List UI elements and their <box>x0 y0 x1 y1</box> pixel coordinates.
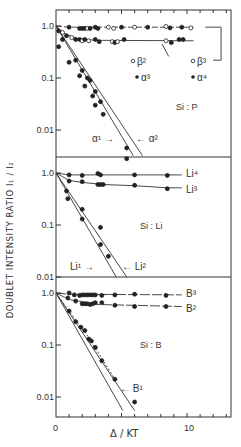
legend-beta2: β² <box>137 56 147 67</box>
label-b1: ← B¹ <box>120 383 143 394</box>
data-point <box>133 305 137 309</box>
y-axis-label: DOUBLET INTENSITY RATIO I₁ / I₂ <box>3 120 17 360</box>
data-point <box>93 301 97 305</box>
data-point <box>91 94 95 98</box>
data-point <box>67 25 71 29</box>
data-point <box>177 38 181 42</box>
data-point <box>78 74 82 78</box>
data-point <box>67 173 71 177</box>
label-alpha1: α¹ → <box>92 133 114 144</box>
data-point <box>164 293 168 297</box>
data-point <box>101 112 105 116</box>
data-point <box>100 359 104 363</box>
data-point <box>89 339 93 343</box>
label-li4: Li⁴ <box>186 168 198 179</box>
beta2-alpha3-arrow <box>162 44 169 56</box>
data-point <box>180 25 184 29</box>
data-point <box>133 400 137 404</box>
trend-line <box>56 173 182 175</box>
legend-alpha3: α³ <box>141 72 151 83</box>
y-tick-label: 0.1 <box>41 73 54 83</box>
data-point <box>165 187 169 191</box>
y-tick-label: 0.01 <box>36 392 54 402</box>
data-point <box>113 293 117 297</box>
label-li2: ← Li² <box>122 261 147 272</box>
label-li3: Li³ <box>186 184 198 195</box>
x-tick-label: 0 <box>53 423 58 433</box>
data-point <box>125 157 129 161</box>
chart-figure: 0101.00.10.011.00.10.011.00.10.01 β²α³β³… <box>0 0 241 447</box>
data-point <box>74 320 78 324</box>
trend-line <box>56 26 194 27</box>
label-b3: B³ <box>186 288 197 299</box>
y-tick-label: 1.0 <box>41 21 54 31</box>
data-point <box>165 173 169 177</box>
fit-line <box>56 293 123 411</box>
data-point <box>67 291 71 295</box>
data-point <box>88 78 92 82</box>
data-point <box>66 197 70 201</box>
y-axis-label-text: DOUBLET INTENSITY RATIO I₁ / I₂ <box>5 162 15 319</box>
data-point <box>93 103 97 107</box>
data-point <box>70 36 74 40</box>
data-point <box>181 38 185 42</box>
panel-label-si-li: Si : Li <box>140 221 163 231</box>
data-point <box>99 173 103 177</box>
data-point <box>87 39 91 43</box>
y-tick-label: 1.0 <box>41 288 54 298</box>
data-point <box>88 26 92 30</box>
data-point <box>133 173 137 177</box>
y-tick-label: 0.01 <box>36 272 54 282</box>
panel-label-si-b: Si : B <box>140 340 162 350</box>
data-point <box>125 146 129 150</box>
data-point <box>67 60 71 64</box>
data-point <box>65 34 69 38</box>
data-point <box>80 173 84 177</box>
data-point <box>122 38 126 42</box>
data-point <box>74 299 78 303</box>
data-point <box>164 25 168 29</box>
data-point <box>83 84 87 88</box>
beta3-alpha4-bracket <box>205 27 221 60</box>
data-point <box>99 100 103 104</box>
data-point <box>164 39 168 43</box>
data-point <box>67 309 71 313</box>
data-point <box>133 25 137 29</box>
data-point <box>133 183 137 187</box>
data-point <box>74 38 78 42</box>
data-point <box>72 293 76 297</box>
y-tick-label: 0.01 <box>36 125 54 135</box>
data-point <box>61 38 65 42</box>
data-point <box>65 189 69 193</box>
label-alpha2: ← α² <box>136 133 159 144</box>
y-tick-label: 1.0 <box>41 168 54 178</box>
panel-label-si-p: Si : P <box>176 102 198 112</box>
data-point <box>116 40 120 44</box>
data-point <box>100 301 104 305</box>
data-point <box>80 217 84 221</box>
data-point <box>80 207 84 211</box>
label-li1: Li¹ → <box>70 261 94 272</box>
data-point <box>97 40 101 44</box>
data-point <box>93 293 97 297</box>
data-point <box>113 377 117 381</box>
data-point <box>189 26 193 30</box>
data-point <box>133 292 137 296</box>
data-point <box>57 29 61 33</box>
data-point <box>120 25 124 29</box>
legend-alpha4: α⁴ <box>197 72 207 83</box>
data-point <box>93 38 97 42</box>
data-point <box>83 329 87 333</box>
data-point <box>106 25 110 29</box>
data-point <box>99 243 103 247</box>
data-point <box>164 305 168 309</box>
data-point <box>146 25 150 29</box>
data-point <box>74 58 78 62</box>
data-point <box>106 254 110 258</box>
data-point <box>112 26 116 30</box>
legend-beta3: β³ <box>197 56 207 67</box>
data-point <box>93 90 97 94</box>
data-point <box>100 293 104 297</box>
data-point <box>61 31 65 35</box>
data-point <box>80 68 84 72</box>
